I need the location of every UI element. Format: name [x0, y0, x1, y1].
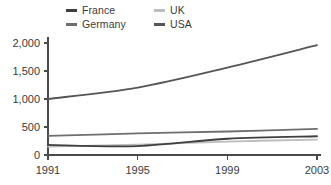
- series-line-usa: [48, 45, 317, 99]
- x-tick-label: 1995: [125, 164, 149, 176]
- y-tick-label: 0: [34, 149, 40, 161]
- x-tick-label: 2003: [305, 164, 329, 176]
- series-line-germany: [48, 129, 317, 136]
- y-tick-label: 1,500: [12, 65, 40, 77]
- y-tick-label: 500: [22, 121, 40, 133]
- x-tick-label: 1999: [215, 164, 239, 176]
- y-tick-label: 1,000: [12, 93, 40, 105]
- line-chart: France UK Germany USA 05001,0001,5002,00…: [0, 0, 331, 185]
- data-series-group: [48, 45, 317, 146]
- y-tick-label: 2,000: [12, 37, 40, 49]
- plot-area: 05001,0001,5002,000 1991199519992003: [0, 0, 331, 185]
- x-tick-label: 1991: [36, 164, 60, 176]
- x-axis-tick-labels: 1991199519992003: [36, 164, 329, 176]
- y-axis-tick-labels: 05001,0001,5002,000: [12, 37, 40, 161]
